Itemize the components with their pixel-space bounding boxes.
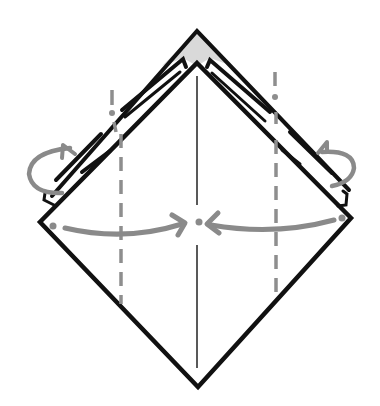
center-dot [196,219,203,226]
arrow-right-to-center [211,220,334,229]
origami-diagram [0,0,380,406]
right-layer-edge-2 [212,73,265,121]
mountain-fold-right [272,72,278,124]
right-corner-dot [339,215,346,222]
arrow-left-to-center [65,224,182,234]
turn-back-left-head-icon [62,145,75,158]
left-corner-dot [50,223,57,230]
